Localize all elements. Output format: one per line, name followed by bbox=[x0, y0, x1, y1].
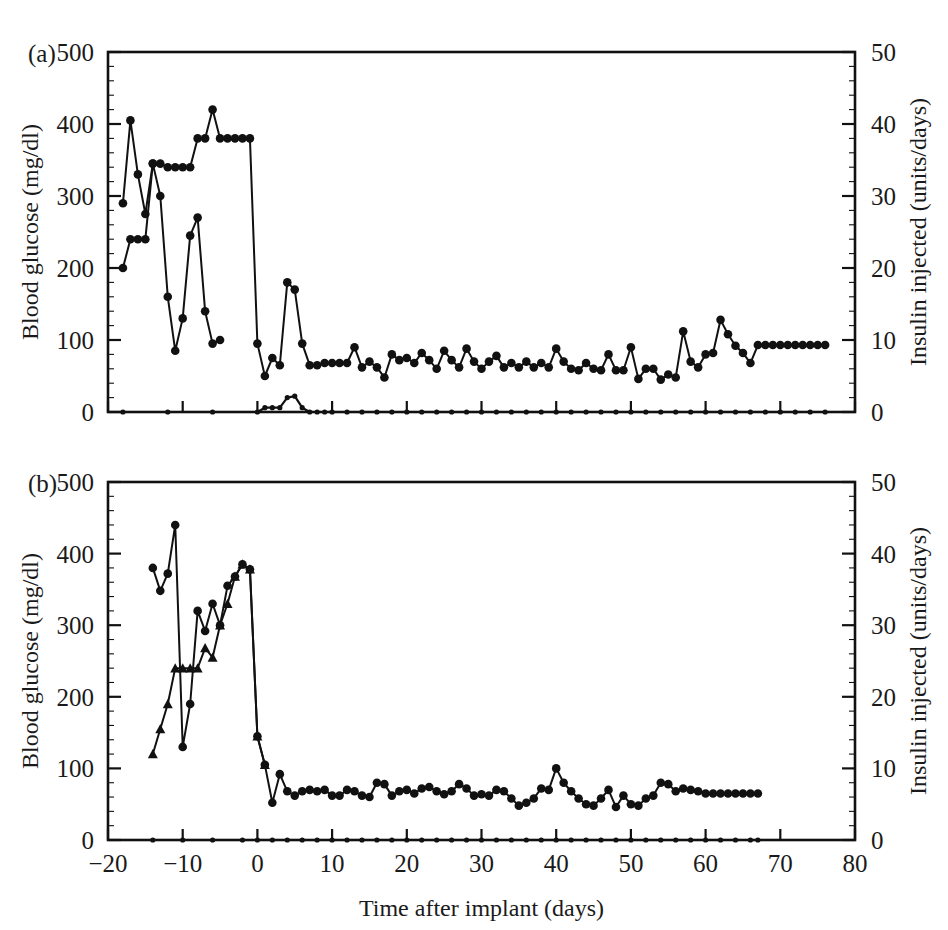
y-right-tick-label: 0 bbox=[871, 827, 884, 854]
panel-b-plot: 001001020020300304004050050−20−100102030… bbox=[0, 440, 948, 930]
y-left-tick-label: 100 bbox=[57, 755, 95, 782]
plot-frame bbox=[108, 482, 855, 840]
y-left-tick-label: 100 bbox=[57, 327, 95, 354]
data-point-marker bbox=[255, 409, 260, 414]
data-point-marker bbox=[598, 837, 603, 842]
data-point-marker bbox=[582, 800, 591, 809]
data-point-marker bbox=[163, 163, 172, 172]
data-point-marker bbox=[276, 361, 285, 370]
data-point-marker bbox=[554, 837, 559, 842]
y-left-axis-title: Blood glucose (mg/dl) bbox=[17, 124, 43, 340]
data-point-marker bbox=[246, 134, 255, 143]
data-point-marker bbox=[270, 405, 275, 410]
data-point-marker bbox=[522, 357, 531, 366]
data-point-marker bbox=[539, 837, 544, 842]
data-point-marker bbox=[612, 803, 621, 812]
glucose-series-line bbox=[123, 110, 825, 380]
data-point-marker bbox=[634, 801, 643, 810]
glucose-series-line bbox=[153, 564, 265, 764]
data-point-marker bbox=[449, 409, 454, 414]
x-tick-label: 50 bbox=[618, 850, 643, 877]
y-right-tick-label: 10 bbox=[871, 327, 896, 354]
data-point-marker bbox=[210, 837, 215, 842]
x-tick-label: 0 bbox=[251, 850, 264, 877]
data-point-marker bbox=[509, 837, 514, 842]
data-point-marker bbox=[597, 794, 606, 803]
data-point-marker bbox=[539, 409, 544, 414]
y-left-tick-label: 500 bbox=[57, 39, 95, 66]
data-point-marker bbox=[761, 341, 770, 350]
data-point-marker bbox=[673, 837, 678, 842]
panel-label: (b) bbox=[28, 470, 57, 498]
data-point-marker bbox=[574, 794, 583, 803]
data-point-marker bbox=[634, 375, 643, 384]
data-point-marker bbox=[754, 341, 763, 350]
data-point-marker bbox=[574, 366, 583, 375]
data-point-marker bbox=[223, 134, 232, 143]
data-point-marker bbox=[305, 786, 314, 795]
data-point-marker bbox=[524, 409, 529, 414]
data-point-marker bbox=[277, 405, 282, 410]
data-point-marker bbox=[500, 363, 509, 372]
data-point-marker bbox=[388, 791, 397, 800]
data-point-marker bbox=[567, 787, 576, 796]
data-point-marker bbox=[261, 372, 270, 381]
data-point-marker bbox=[694, 787, 703, 796]
panel-b: 001001020020300304004050050−20−100102030… bbox=[0, 440, 948, 930]
data-point-marker bbox=[373, 778, 382, 787]
data-point-marker bbox=[403, 786, 412, 795]
data-point-marker bbox=[358, 363, 367, 372]
data-point-marker bbox=[186, 231, 195, 240]
data-point-marker bbox=[679, 784, 688, 793]
data-point-marker bbox=[201, 134, 210, 143]
data-point-marker bbox=[193, 134, 202, 143]
data-point-marker bbox=[419, 409, 424, 414]
data-point-marker bbox=[404, 409, 409, 414]
data-point-marker bbox=[374, 837, 379, 842]
data-point-marker bbox=[748, 837, 753, 842]
data-point-marker bbox=[156, 192, 165, 201]
data-point-marker bbox=[658, 409, 663, 414]
data-point-marker bbox=[163, 569, 172, 578]
y-left-tick-label: 200 bbox=[57, 255, 95, 282]
x-tick-label: 10 bbox=[320, 850, 345, 877]
data-point-marker bbox=[806, 341, 815, 350]
y-right-tick-label: 30 bbox=[871, 183, 896, 210]
y-right-tick-label: 20 bbox=[871, 684, 896, 711]
y-left-tick-label: 300 bbox=[57, 612, 95, 639]
data-point-marker bbox=[627, 343, 636, 352]
data-point-marker bbox=[552, 344, 561, 353]
data-point-marker bbox=[524, 837, 529, 842]
data-point-marker bbox=[165, 409, 170, 414]
data-point-marker bbox=[180, 837, 185, 842]
data-point-marker bbox=[395, 787, 404, 796]
data-point-marker bbox=[300, 837, 305, 842]
data-point-marker bbox=[290, 791, 299, 800]
data-point-marker bbox=[492, 352, 501, 361]
data-point-marker bbox=[664, 780, 673, 789]
data-point-marker bbox=[359, 837, 364, 842]
data-point-marker bbox=[515, 801, 524, 810]
x-tick-label: 40 bbox=[544, 850, 569, 877]
data-point-marker bbox=[134, 170, 143, 179]
data-point-marker bbox=[569, 409, 574, 414]
data-point-marker bbox=[292, 394, 297, 399]
data-point-marker bbox=[238, 134, 247, 143]
data-point-marker bbox=[718, 837, 723, 842]
data-point-marker bbox=[313, 787, 322, 796]
data-point-marker bbox=[262, 405, 267, 410]
data-point-marker bbox=[544, 786, 553, 795]
data-point-marker bbox=[529, 363, 538, 372]
data-point-marker bbox=[776, 341, 785, 350]
data-point-marker bbox=[178, 163, 187, 172]
data-point-marker bbox=[703, 409, 708, 414]
panel-a: 001001020020300304004050050Blood glucose… bbox=[0, 0, 948, 450]
y-right-tick-label: 40 bbox=[871, 541, 896, 568]
data-point-marker bbox=[507, 359, 516, 368]
data-point-marker bbox=[701, 350, 710, 359]
data-point-marker bbox=[537, 359, 546, 368]
data-point-marker bbox=[208, 105, 217, 114]
data-point-marker bbox=[156, 159, 165, 168]
data-point-marker bbox=[155, 724, 165, 733]
data-point-marker bbox=[703, 837, 708, 842]
